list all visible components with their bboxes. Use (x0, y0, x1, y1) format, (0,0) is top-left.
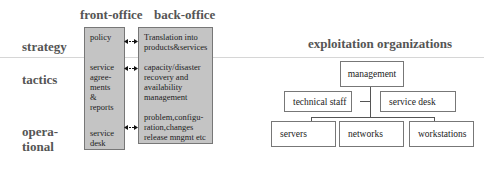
front-office-policy: policy (90, 32, 111, 42)
back-office-capacity: capacity/disaster recovery and availabil… (144, 62, 201, 102)
row-label-operational: opera- tional (22, 124, 58, 154)
org-box-networks: networks (339, 121, 404, 147)
org-box-servers: servers (271, 121, 336, 147)
back-office-translation: Translation into products&services (144, 32, 207, 52)
row-label-tactics: tactics (22, 72, 57, 87)
double-arrow-icon (124, 38, 138, 45)
org-box-service-desk: service desk (380, 91, 456, 112)
org-box-workstations: workstations (409, 121, 474, 147)
row-label-operational-line2: tional (22, 139, 58, 154)
row-label-operational-line1: opera- (22, 124, 58, 139)
front-office-service-desk: service desk (90, 128, 114, 148)
connector-staff (360, 101, 370, 102)
connector-horizontal (311, 117, 434, 118)
front-office-heading: front-office (80, 7, 143, 23)
exploitation-heading: exploitation organizations (308, 36, 452, 52)
front-office-service-agreements: service agree- ments & reports (90, 62, 114, 112)
org-box-technical-staff: technical staff (284, 91, 352, 112)
connector-vertical (370, 87, 371, 118)
row-label-strategy: strategy (22, 39, 67, 54)
double-arrow-icon (124, 124, 138, 131)
back-office-problem: problem,configu- ration,changes release … (144, 112, 206, 142)
horizontal-divider (0, 57, 484, 58)
back-office-heading: back-office (154, 7, 215, 23)
double-arrow-icon (124, 65, 138, 72)
org-box-management: management (340, 61, 404, 87)
